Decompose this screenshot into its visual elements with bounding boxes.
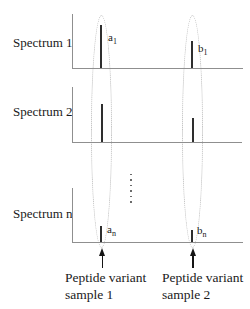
spectrum-peak	[192, 118, 194, 142]
spectrum-1-x-axis	[72, 68, 243, 69]
sample-2-caption-line2: sample 2	[162, 287, 243, 304]
sample-1-caption-line2: sample 1	[65, 287, 146, 304]
spectrum-peak	[191, 230, 193, 242]
sample-2-arrow-shaft	[192, 255, 194, 268]
spectrum-2-x-axis	[72, 142, 242, 143]
continuation-dots	[130, 174, 132, 206]
spectrum-peak	[100, 25, 102, 68]
spectrum-peak	[191, 41, 193, 68]
spectrum-n-y-axis	[72, 188, 73, 242]
sample-2-caption-line1: Peptide variant	[162, 270, 243, 287]
spectra-alignment-figure: Spectrum 1 a1 b1 Spectrum 2 Spectrum n a…	[0, 0, 250, 309]
spectrum-1-y-axis	[72, 14, 73, 68]
sample-1-arrow-shaft	[102, 255, 104, 268]
spectrum-2-label: Spectrum 2	[13, 104, 73, 120]
spectrum-peak	[101, 104, 103, 142]
peak-label-b1: b1	[198, 42, 208, 54]
spectrum-n-label: Spectrum n	[13, 206, 73, 222]
sample-1-caption: Peptide variant sample 1	[65, 270, 146, 303]
sample-1-caption-line1: Peptide variant	[65, 270, 146, 287]
spectrum-1-label: Spectrum 1	[13, 35, 73, 51]
peak-label-a1: a1	[108, 31, 117, 43]
sample-2-caption: Peptide variant sample 2	[162, 270, 243, 303]
peak-label-an: an	[107, 223, 116, 235]
peak-label-bn: bn	[197, 224, 207, 236]
spectrum-n-x-axis	[72, 242, 243, 243]
spectrum-peak	[100, 226, 102, 242]
spectrum-2-y-axis	[72, 87, 73, 142]
